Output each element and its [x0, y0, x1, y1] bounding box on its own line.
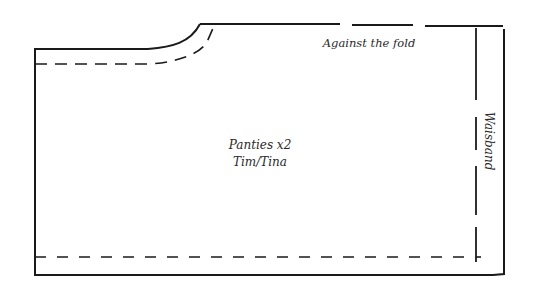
- piece-size-label: Tim/Tina: [233, 155, 287, 169]
- crotch-curve-cut-line: [148, 24, 200, 49]
- outer-cut-line: [35, 29, 504, 275]
- waistband-label: Waisband: [482, 112, 496, 171]
- seam-allowance-top: [35, 26, 214, 64]
- pattern-diagram: Against the fold Panties x2 Tim/Tina Wai…: [0, 0, 533, 290]
- piece-name-label: Panties x2: [228, 138, 292, 152]
- fold-label: Against the fold: [322, 36, 416, 50]
